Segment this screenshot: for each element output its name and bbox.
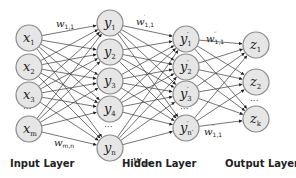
connection-edge: [119, 32, 175, 85]
connection-edge: [119, 61, 176, 118]
neuron-input: x1: [16, 25, 42, 51]
neuron-output: z1: [243, 32, 269, 58]
connection-edge: [123, 112, 173, 124]
weight-prime: ′: [141, 151, 143, 158]
neuron-hidden2: ′yn′: [173, 115, 199, 141]
neuron-output: zk: [243, 106, 269, 132]
connection-edge: [198, 49, 242, 63]
connection-edge: [121, 30, 174, 60]
weight-label: w1,1: [56, 18, 74, 30]
neuron-hidden1: y2: [97, 39, 123, 65]
neuron-input: x2: [16, 54, 42, 80]
output-layer-label: Output Layer: [225, 158, 296, 169]
neuron-input: xm: [16, 116, 42, 142]
neuron-hidden2: ′y2: [173, 54, 199, 80]
connection-edge: [120, 48, 176, 100]
network-graph: x1x2x3xm···y1y2y3y4yn···′y1′y2′y3′yn′···…: [0, 0, 296, 178]
ellipsis: ···: [180, 104, 189, 114]
neuron-hidden2: ′y1: [173, 26, 199, 52]
neuron-hidden1: y1: [97, 10, 123, 36]
connection-edge: [197, 53, 245, 87]
connection-edge: [119, 77, 177, 138]
ellipsis: ···: [23, 104, 32, 114]
neuron-output: z2: [243, 69, 269, 95]
connection-edge: [121, 58, 173, 87]
connection-edge: [40, 102, 98, 140]
input-layer-label: Input Layer: [10, 158, 74, 169]
neuron-hidden1: y4: [97, 96, 123, 122]
connection-edge: [198, 98, 243, 114]
connection-edge: [199, 70, 243, 79]
connection-edge: [39, 32, 100, 86]
connection-edge: [194, 56, 247, 118]
hidden-layer-label: Hidden Layer: [122, 158, 197, 169]
connection-edge: [199, 84, 242, 91]
neuron-hidden1: y3: [97, 68, 123, 94]
connection-edge: [42, 112, 97, 126]
neural-network-diagram: x1x2x3xm···y1y2y3y4yn···′y1′y2′y3′yn′···…: [0, 0, 296, 178]
connection-edge: [121, 88, 174, 121]
ellipsis: ···: [104, 122, 113, 132]
weight-prime: ′: [144, 13, 146, 20]
neuron-hidden1: yn: [97, 135, 123, 161]
ellipsis: ···: [250, 96, 259, 106]
connection-edge: [123, 41, 172, 49]
weight-prime: ′′: [214, 30, 217, 37]
